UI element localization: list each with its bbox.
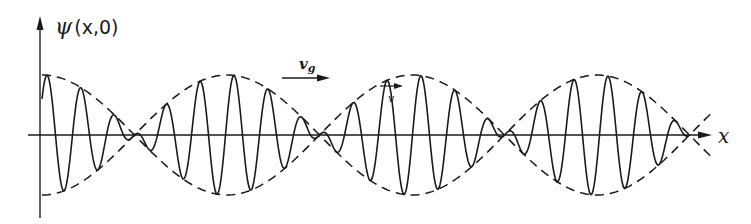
y-axis (37, 16, 44, 218)
group-velocity-arrow-icon (317, 75, 330, 82)
y-axis-arrow-icon (37, 16, 44, 30)
wave-packet-figure: ψ(x,0) x vg v (0, 0, 751, 224)
y-axis-label: ψ(x,0) (55, 14, 118, 39)
x-axis-label: x (718, 124, 729, 148)
group-velocity-annotation: vg (282, 55, 330, 82)
x-axis-arrow-icon (698, 132, 712, 139)
group-velocity-label: vg (299, 55, 316, 75)
phase-velocity-label: v (388, 92, 395, 105)
x-axis (28, 132, 712, 139)
phase-velocity-arrow-icon (394, 83, 403, 89)
